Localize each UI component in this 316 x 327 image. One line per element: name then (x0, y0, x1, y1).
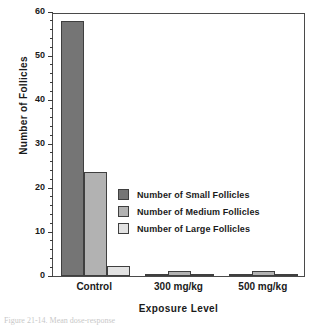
tick-mark (50, 205, 53, 206)
legend-label: Number of Medium Follicles (137, 207, 260, 217)
tick-mark (48, 276, 53, 277)
tick-mark (50, 47, 53, 48)
bar (275, 274, 298, 276)
tick-mark (50, 73, 53, 74)
x-tick-label: 500 mg/kg (238, 281, 287, 292)
tick-mark (50, 82, 53, 83)
y-tick-label: 50 (35, 50, 45, 61)
legend-swatch-icon (118, 189, 129, 200)
legend-item: Number of Small Follicles (118, 186, 260, 203)
tick-mark (50, 20, 53, 21)
tick-mark (48, 100, 53, 101)
tick-mark (50, 258, 53, 259)
tick-mark (50, 161, 53, 162)
figure-container: Number of Follicles 0102030405060 Contro… (0, 0, 316, 327)
legend-swatch-icon (118, 223, 129, 234)
y-tick-label: 40 (35, 94, 45, 105)
tick-mark (50, 267, 53, 268)
legend-swatch-icon (118, 206, 129, 217)
tick-mark (50, 179, 53, 180)
y-tick-label: 0 (40, 270, 45, 281)
legend-item: Number of Large Follicles (118, 220, 260, 237)
plot-area: 0102030405060 (52, 13, 305, 277)
tick-mark (48, 144, 53, 145)
legend-label: Number of Large Follicles (137, 224, 250, 234)
figure-caption: Figure 21-14. Mean dose-response (4, 316, 115, 325)
bar (84, 172, 107, 276)
legend-item: Number of Medium Follicles (118, 203, 260, 220)
tick-mark (48, 232, 53, 233)
tick-mark (50, 126, 53, 127)
tick-mark (50, 117, 53, 118)
tick-mark (50, 249, 53, 250)
tick-mark (50, 64, 53, 65)
tick-mark (50, 223, 53, 224)
tick-mark (50, 170, 53, 171)
tick-mark (50, 135, 53, 136)
tick-mark (48, 56, 53, 57)
bar (229, 274, 252, 276)
tick-mark (50, 108, 53, 109)
tick-mark (50, 38, 53, 39)
tick-mark (48, 188, 53, 189)
y-tick-label: 10 (35, 226, 45, 237)
y-tick-label: 20 (35, 182, 45, 193)
x-tick-label: 300 mg/kg (154, 281, 203, 292)
x-axis-title: Exposure Level (52, 303, 305, 314)
tick-mark (50, 152, 53, 153)
y-tick-label: 60 (35, 6, 45, 17)
bar (107, 266, 130, 276)
tick-mark (50, 29, 53, 30)
bar (61, 21, 84, 276)
bar (145, 274, 168, 276)
chart-legend: Number of Small FolliclesNumber of Mediu… (118, 186, 260, 237)
y-axis-title: Number of Follicles (18, 21, 29, 191)
tick-mark (50, 91, 53, 92)
tick-mark (48, 12, 53, 13)
tick-mark (50, 240, 53, 241)
legend-label: Number of Small Follicles (137, 190, 250, 200)
bar (252, 271, 275, 276)
bar (168, 271, 191, 276)
tick-mark (50, 214, 53, 215)
y-tick-label: 30 (35, 138, 45, 149)
tick-mark (50, 196, 53, 197)
x-tick-label: Control (76, 281, 112, 292)
bar (191, 274, 214, 276)
